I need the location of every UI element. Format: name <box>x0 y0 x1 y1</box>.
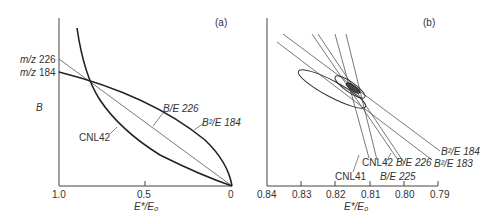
panel-b-label-cnl42: CNL42 <box>362 157 394 168</box>
panel-b-label-b2e183: B²/E 183 <box>434 158 473 169</box>
panel-b-line-b2e184 <box>283 34 440 151</box>
panel-b-label-b2e184: B²/E 184 <box>441 146 480 157</box>
panel-b-xtick-082: 0.82 <box>326 189 346 200</box>
panel-a-leader-be226 <box>153 113 163 126</box>
panel-a: (a) m/z 226 m/z 184 B B/E 226 B²/E 184 C… <box>20 17 241 212</box>
panel-a-leader-cnl42 <box>110 127 117 134</box>
panel-a-xtick-1: 1.0 <box>52 189 66 200</box>
panel-b-x-label: E*/E₀ <box>344 201 368 212</box>
panel-a-tag: (a) <box>215 17 227 28</box>
panel-b-xtick-079: 0.79 <box>430 189 450 200</box>
panel-a-marker-226: m/z 226 <box>20 54 56 65</box>
panel-b-xtick-080: 0.80 <box>395 189 415 200</box>
panel-b-line-b2e183 <box>277 42 432 160</box>
panel-b-label-be225: B/E 225 <box>380 171 416 182</box>
panel-a-x-label: E*/E₀ <box>134 201 158 212</box>
panel-a-xtick-0: 0 <box>228 189 234 200</box>
panel-b-label-cnl41: CNL41 <box>335 171 367 182</box>
panel-b-leader-cnl41 <box>353 155 359 172</box>
panel-a-label-cnl42: CNL42 <box>79 132 111 143</box>
panel-b-line-cnl42 <box>335 34 369 158</box>
figure: (a) m/z 226 m/z 184 B B/E 226 B²/E 184 C… <box>0 0 496 222</box>
panel-a-label-b2e184: B²/E 184 <box>202 117 241 128</box>
panel-b-line-cnl42b <box>346 34 377 160</box>
panel-b-xtick-083: 0.83 <box>292 189 312 200</box>
panel-a-curve-b2e184 <box>59 72 232 186</box>
panel-b-xtick-084: 0.84 <box>257 189 277 200</box>
panel-a-y-label: B <box>36 102 43 113</box>
panel-a-marker-184: m/z 184 <box>20 67 56 78</box>
panel-a-xtick-05: 0.5 <box>137 189 151 200</box>
panel-b-xtick-081: 0.81 <box>361 189 381 200</box>
panel-a-label-be226: B/E 226 <box>163 103 199 114</box>
panel-b-label-be226: B/E 226 <box>396 157 432 168</box>
panel-b: (b) B²/E 184 B²/E 183 CNL42 B/E 226 CNL4… <box>257 17 480 212</box>
panel-b-tag: (b) <box>423 17 435 28</box>
panel-b-line-be226 <box>312 34 398 160</box>
